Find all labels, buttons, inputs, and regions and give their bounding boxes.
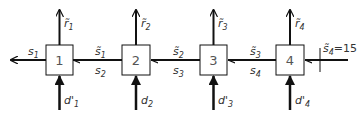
link-label-bottom-1: s2 [95, 64, 106, 79]
node-4: 4 [276, 45, 304, 75]
flow-diagram: 1 2 3 4 r̃1 r̃2 r̃3 r̃4 d'1 d2 d'3 d'4 s… [0, 0, 362, 118]
release-label-4: r̃4 [295, 17, 305, 32]
link-label-bottom-3: s4 [250, 64, 261, 79]
svg-text:3: 3 [209, 53, 217, 68]
svg-text:1: 1 [55, 53, 63, 68]
svg-text:2: 2 [132, 53, 140, 68]
demand-label-3: d'3 [218, 94, 233, 109]
svg-text:4: 4 [286, 53, 294, 68]
node-2: 2 [122, 45, 150, 75]
link-label-top-3: s̃3 [250, 45, 261, 60]
link-label-s1: s1 [28, 45, 39, 60]
demand-label-4: d'4 [295, 94, 310, 109]
boundary-label: s̃4=15 [323, 42, 357, 57]
demand-label-2: d2 [141, 94, 153, 109]
link-label-top-2: s̃2 [173, 45, 184, 60]
link-label-bottom-2: s3 [173, 64, 184, 79]
link-label-top-1: s̃1 [95, 45, 106, 60]
release-label-3: r̃3 [218, 17, 228, 32]
release-label-2: r̃2 [141, 17, 151, 32]
node-3: 3 [200, 45, 227, 75]
release-label-1: r̃1 [64, 17, 74, 32]
node-1: 1 [46, 45, 73, 75]
demand-label-1: d'1 [64, 94, 79, 109]
